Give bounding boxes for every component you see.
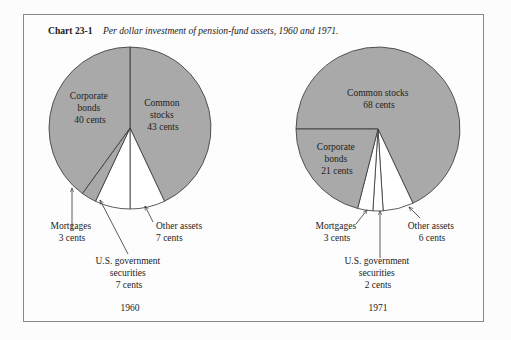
label-1971-mortgages: Mortgages 3 cents [315, 221, 358, 243]
pie-1971: Common stocks 68 cents Corporate bonds 2… [296, 47, 460, 313]
arrow-1960-other-assets [145, 206, 153, 222]
label-1960-us-gov: U.S. government securities 7 cents [95, 256, 162, 290]
pie-1971-slices [296, 47, 460, 211]
label-1971-other-assets: Other assets 6 cents [408, 221, 457, 243]
label-1960-other-assets: Other assets 7 cents [156, 221, 205, 243]
pie-1960: Corporate bonds 40 cents Common stocks 4… [49, 47, 211, 313]
label-1971-us-gov: U.S. government securities 2 cents [344, 256, 411, 290]
label-1960-mortgages: Mortgages 3 cents [50, 221, 93, 243]
charts-canvas: Corporate bonds 40 cents Common stocks 4… [0, 0, 511, 340]
arrow-1971-other-assets [409, 207, 420, 218]
pie-1960-slices [49, 47, 211, 209]
year-label-1960: 1960 [121, 303, 140, 313]
year-label-1971: 1971 [369, 303, 388, 313]
